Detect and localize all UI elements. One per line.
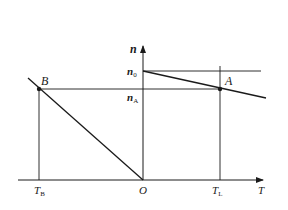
point-a-label: A	[224, 74, 233, 88]
diagram-canvas: n n0 nA B A TB O TL T	[0, 0, 288, 210]
tb-label: TB	[34, 184, 45, 198]
n-axis-label: n	[130, 42, 137, 56]
tl-label: TL	[212, 184, 222, 198]
point-b-label: B	[41, 74, 49, 88]
origin-label: O	[139, 184, 147, 196]
load-line-b	[28, 78, 143, 180]
n0-label: n0	[127, 65, 137, 79]
point-a	[218, 87, 222, 91]
t-axis-label: T	[258, 184, 265, 196]
load-line-a	[143, 71, 266, 98]
na-label: nA	[127, 91, 138, 105]
